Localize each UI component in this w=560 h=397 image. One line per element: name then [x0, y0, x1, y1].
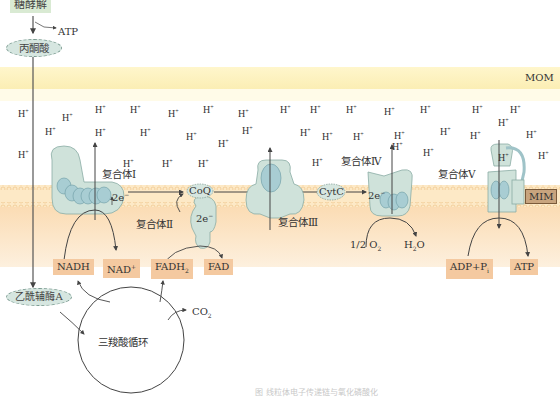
- tca-cycle-label: 三羧酸循环: [98, 336, 148, 348]
- proton-label: H+: [420, 104, 431, 115]
- proton-label: H+: [300, 127, 311, 138]
- complex-4-label: 复合体Ⅳ: [341, 153, 382, 168]
- proton-label: H+: [140, 127, 151, 138]
- atp-output-label: ATP: [58, 26, 78, 38]
- proton-label: H+: [346, 104, 357, 115]
- adp-pi-label: ADP+Pi: [446, 259, 493, 279]
- figure-caption: 图 线粒体电子传递链与氧化磷酸化: [255, 386, 378, 397]
- nadh-label: NADH: [53, 259, 94, 275]
- proton-label: H+: [498, 117, 509, 128]
- proton-label: H+: [310, 104, 321, 115]
- proton-label: H+: [186, 131, 197, 142]
- proton-label: H+: [392, 141, 403, 152]
- proton-label: H+: [280, 104, 291, 115]
- atp-label: ATP: [510, 259, 538, 275]
- electrons-c2: 2e−: [196, 210, 213, 225]
- proton-label: H+: [168, 108, 179, 119]
- proton-label: H+: [45, 126, 56, 137]
- proton-label: H+: [62, 112, 73, 123]
- proton-label: H+: [470, 130, 481, 141]
- proton-label: H+: [203, 104, 214, 115]
- complex-5-label: 复合体Ⅴ: [438, 166, 476, 181]
- proton-label: H+: [123, 158, 134, 169]
- mim-label: MIM: [525, 189, 557, 204]
- water-label: H2O: [404, 239, 425, 255]
- proton-label: H+: [384, 106, 395, 117]
- proton-label: H+: [353, 131, 364, 142]
- glycolysis-label: 糖酵解: [10, 0, 51, 13]
- outer-membrane: [0, 67, 560, 89]
- complex-2-label: 复合体Ⅱ: [136, 216, 173, 231]
- proton-label: H+: [394, 130, 405, 141]
- pyruvate-label: 丙酮酸: [6, 39, 62, 57]
- co2-label: CO2: [192, 306, 212, 322]
- fad-label: FAD: [204, 259, 233, 275]
- coq-label: CoQ: [189, 185, 211, 197]
- proton-label: H+: [440, 126, 451, 137]
- proton-label: H+: [198, 158, 209, 169]
- proton-label: H+: [242, 125, 253, 136]
- proton-label: H+: [538, 150, 549, 161]
- complex-3-label: 复合体Ⅲ: [278, 214, 318, 229]
- proton-label: H+: [162, 158, 173, 169]
- mom-label: MOM: [522, 71, 557, 84]
- proton-label: H+: [423, 147, 434, 158]
- nad-label: NAD+: [103, 259, 140, 278]
- proton-label: H+: [18, 108, 29, 119]
- proton-label: H+: [18, 149, 29, 160]
- cytc-label: CytC: [319, 186, 344, 198]
- fadh2-label: FADH2: [151, 259, 193, 279]
- proton-label: H+: [238, 108, 249, 119]
- acetyl-coa-label: 乙酰辅酶A: [6, 288, 72, 306]
- proton-label: H+: [95, 127, 106, 138]
- proton-label: H+: [472, 104, 483, 115]
- proton-label: H+: [218, 138, 229, 149]
- electrons-c1: 2e−: [112, 189, 129, 204]
- proton-label: H+: [510, 104, 521, 115]
- proton-label: H+: [498, 152, 509, 163]
- oxygen-label: 1/2 O2: [350, 239, 381, 255]
- proton-label: H+: [130, 104, 141, 115]
- proton-label: H+: [312, 157, 323, 168]
- proton-label: H+: [95, 104, 106, 115]
- proton-label: H+: [322, 131, 333, 142]
- electrons-c4: 2e−: [368, 187, 385, 202]
- proton-label: H+: [526, 129, 537, 140]
